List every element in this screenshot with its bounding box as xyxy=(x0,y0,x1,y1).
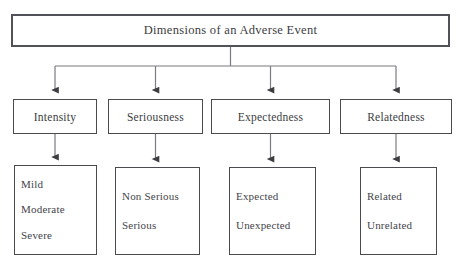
value-item: Non Serious xyxy=(122,191,196,203)
category-label: Intensity xyxy=(34,111,77,123)
category-box-seriousness: Seriousness xyxy=(108,99,203,134)
diagram-title: Dimensions of an Adverse Event xyxy=(144,23,318,38)
category-box-relatedness: Relatedness xyxy=(340,99,452,134)
values-box-expectedness: Expected Unexpected xyxy=(229,167,316,255)
category-label: Expectedness xyxy=(238,111,304,123)
diagram-title-box: Dimensions of an Adverse Event xyxy=(11,14,450,47)
category-box-expectedness: Expectedness xyxy=(211,99,330,134)
value-item: Mild xyxy=(21,179,93,191)
category-box-intensity: Intensity xyxy=(13,99,97,134)
diagram-canvas: Dimensions of an Adverse Event Intensity… xyxy=(0,0,461,267)
value-item: Unexpected xyxy=(236,220,312,232)
value-item: Severe xyxy=(21,230,93,242)
value-item: Expected xyxy=(236,191,312,203)
category-label: Relatedness xyxy=(367,111,425,123)
value-item: Related xyxy=(367,191,433,203)
values-box-relatedness: Related Unrelated xyxy=(360,167,437,255)
values-box-intensity: Mild Moderate Severe xyxy=(14,165,97,255)
values-box-seriousness: Non Serious Serious xyxy=(115,167,200,255)
value-item: Unrelated xyxy=(367,220,433,232)
value-item: Moderate xyxy=(21,204,93,216)
category-label: Seriousness xyxy=(127,111,184,123)
value-item: Serious xyxy=(122,220,196,232)
